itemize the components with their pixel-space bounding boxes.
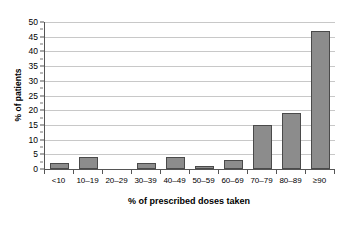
y-axis-tick-labels: 50454035302520151050: [14, 16, 38, 169]
y-axis-minor-tick-mark: [40, 146, 43, 147]
x-axis-tick-labels: <1010–1920–2930–3940–4950–5960–6970–7980…: [44, 176, 334, 185]
x-axis-tick-mark: [305, 169, 306, 174]
x-axis-tick-label: 80–89: [276, 176, 305, 185]
y-axis-minor-tick-mark: [40, 44, 43, 45]
y-axis-tick-label: 25: [29, 92, 38, 100]
bar-slot: [306, 22, 335, 169]
x-axis-tick-mark: [334, 169, 335, 174]
x-axis-tick-mark: [276, 169, 277, 174]
y-axis-tick-label: 20: [29, 106, 38, 114]
bar-slot: [277, 22, 306, 169]
y-axis-tick-label: 0: [33, 165, 38, 173]
x-axis-tick-mark: [189, 169, 190, 174]
y-axis-minor-tick-mark: [40, 161, 43, 162]
bar: [311, 31, 330, 169]
y-axis-tick-label: 30: [29, 77, 38, 85]
x-axis-tick-label: 40–49: [160, 176, 189, 185]
y-axis-tick-label: 40: [29, 47, 38, 55]
y-axis-tick-label: 35: [29, 62, 38, 70]
bar: [253, 125, 272, 169]
x-axis-tick-label: 70–79: [247, 176, 276, 185]
x-axis-tick-label: 60–69: [218, 176, 247, 185]
x-axis-tick-label: 20–29: [102, 176, 131, 185]
bar-slot: [74, 22, 103, 169]
x-axis-tick-mark: [102, 169, 103, 174]
x-axis-tick-label: ≥90: [305, 176, 334, 185]
y-axis-tick-label: 10: [29, 136, 38, 144]
x-axis-tick-marks: [44, 169, 335, 175]
bar: [79, 157, 98, 169]
y-axis-tick-label: 15: [29, 121, 38, 129]
plot-area: [44, 22, 335, 170]
y-axis-tick-label: 5: [33, 150, 38, 158]
y-axis-minor-tick-mark: [40, 102, 43, 103]
y-axis-minor-tick-mark: [40, 88, 43, 89]
bar: [166, 157, 185, 169]
bar-slot: [45, 22, 74, 169]
bar-chart-figure: % of patients 50454035302520151050 <1010…: [0, 0, 348, 226]
x-axis-tick-label: 10–19: [73, 176, 102, 185]
x-axis-title: % of prescribed doses taken: [44, 196, 334, 206]
y-axis-minor-tick-mark: [40, 73, 43, 74]
x-axis-tick-mark: [131, 169, 132, 174]
y-axis-minor-tick-mark: [40, 117, 43, 118]
x-axis-tick-label: 50–59: [189, 176, 218, 185]
y-axis-tick-label: 45: [29, 33, 38, 41]
x-axis-tick-mark: [160, 169, 161, 174]
bar-slot: [248, 22, 277, 169]
x-axis-tick-mark: [247, 169, 248, 174]
y-axis-tick-label: 50: [29, 18, 38, 26]
bar-series: [45, 22, 335, 169]
y-axis-minor-tick-mark: [40, 29, 43, 30]
y-axis-minor-tick-mark: [40, 58, 43, 59]
x-axis-tick-label: 30–39: [131, 176, 160, 185]
bar-slot: [103, 22, 132, 169]
bar: [282, 113, 301, 169]
x-axis-tick-mark: [73, 169, 74, 174]
bar-slot: [219, 22, 248, 169]
x-axis-tick-mark: [44, 169, 45, 174]
bar-slot: [132, 22, 161, 169]
y-axis-minor-tick-mark: [40, 132, 43, 133]
bar: [224, 160, 243, 169]
x-axis-tick-label: <10: [44, 176, 73, 185]
bar-slot: [161, 22, 190, 169]
bar-slot: [190, 22, 219, 169]
x-axis-tick-mark: [218, 169, 219, 174]
